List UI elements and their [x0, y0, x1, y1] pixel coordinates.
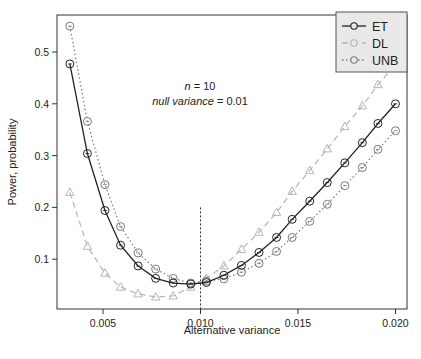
y-tick-label: 0.4: [34, 98, 49, 110]
y-tick-label: 0.2: [34, 201, 49, 213]
legend-marker-icon: [351, 40, 357, 46]
x-tick-label: 0.005: [90, 317, 116, 329]
annotation-sample-size: n = 10: [185, 80, 216, 92]
annotation-null-variance: null variance = 0.01: [152, 95, 248, 107]
legend-marker-icon: [351, 23, 357, 29]
annotation: n = 10 null variance = 0.01: [152, 80, 248, 107]
legend-label: DL: [372, 37, 388, 51]
triangle-marker-icon: [169, 291, 177, 299]
x-axis-label: Alternative variance: [184, 324, 281, 336]
annotation-null-variance-value: = 0.01: [214, 95, 248, 107]
y-tick-label: 0.5: [34, 46, 49, 58]
legend: ETDLUNB: [336, 12, 407, 72]
y-tick-label: 0.3: [34, 150, 49, 162]
annotation-null-variance-label: null variance: [152, 95, 214, 107]
y-axis-label: Power, probability: [6, 118, 18, 205]
legend-label: ET: [372, 20, 388, 34]
legend-label: UNB: [372, 54, 398, 68]
annotation-n-value: = 10: [191, 80, 216, 92]
chart: 0.0050.0100.0150.0200.10.20.30.40.5 n = …: [0, 0, 421, 359]
x-tick-label: 0.020: [382, 317, 408, 329]
legend-marker-icon: [351, 57, 357, 63]
x-tick-label: 0.015: [285, 317, 311, 329]
y-tick-label: 0.1: [34, 253, 49, 265]
line-chart: 0.0050.0100.0150.0200.10.20.30.40.5 n = …: [0, 0, 421, 359]
